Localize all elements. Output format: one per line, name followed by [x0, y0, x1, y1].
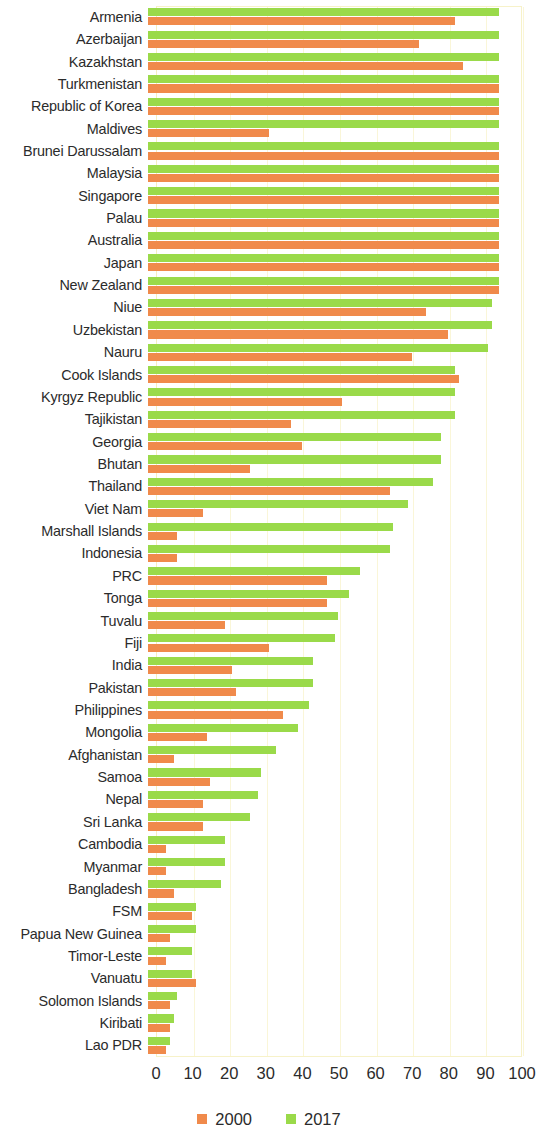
bar-2000	[148, 398, 342, 406]
x-axis-tick-label: 70	[403, 1062, 421, 1084]
category-label: Marshall Islands	[0, 524, 148, 539]
category-label: Sri Lanka	[0, 815, 148, 830]
bar-2000	[148, 800, 203, 808]
bar-2017	[148, 98, 499, 106]
legend-swatch-icon	[197, 1114, 207, 1124]
category-label: Armenia	[0, 10, 148, 25]
x-axis-tick-label: 20	[220, 1062, 238, 1084]
chart-row: FSM	[0, 900, 538, 923]
bar-group	[148, 319, 520, 342]
bar-2017	[148, 232, 499, 240]
chart-row: Thailand	[0, 476, 538, 499]
chart-row: Nepal	[0, 789, 538, 812]
bar-group	[148, 565, 520, 588]
chart-row: Fiji	[0, 632, 538, 655]
category-label: Timor-Leste	[0, 949, 148, 964]
bar-group	[148, 677, 520, 700]
bar-2000	[148, 152, 499, 160]
bar-2017	[148, 724, 298, 732]
chart-row: Georgia	[0, 431, 538, 454]
chart-row: Uzbekistan	[0, 319, 538, 342]
bar-group	[148, 543, 520, 566]
chart-row: Solomon Islands	[0, 990, 538, 1013]
chart-row: Samoa	[0, 766, 538, 789]
bar-2017	[148, 187, 499, 195]
bar-2000	[148, 822, 203, 830]
category-label: Uzbekistan	[0, 323, 148, 338]
bar-2017	[148, 746, 276, 754]
bar-2000	[148, 129, 269, 137]
chart-row: Timor-Leste	[0, 945, 538, 968]
category-label: Nepal	[0, 792, 148, 807]
bar-group	[148, 185, 520, 208]
chart-row: Malaysia	[0, 163, 538, 186]
bar-2017	[148, 366, 455, 374]
bar-2000	[148, 532, 177, 540]
bar-2000	[148, 576, 327, 584]
bar-2017	[148, 679, 313, 687]
chart-row: Japan	[0, 252, 538, 275]
bar-2000	[148, 711, 283, 719]
category-label: Tuvalu	[0, 614, 148, 629]
bar-2017	[148, 321, 492, 329]
bar-2000	[148, 286, 499, 294]
bar-group	[148, 140, 520, 163]
chart-row: Brunei Darussalam	[0, 140, 538, 163]
bar-2000	[148, 353, 412, 361]
chart-row: Kazakhstan	[0, 51, 538, 74]
x-axis: 0102030405060708090100	[0, 1062, 538, 1088]
chart-row: Viet Nam	[0, 498, 538, 521]
chart-row: Republic of Korea	[0, 95, 538, 118]
chart-row: Mongolia	[0, 722, 538, 745]
bar-2000	[148, 666, 232, 674]
category-label: Niue	[0, 300, 148, 315]
bar-2000	[148, 308, 426, 316]
category-label: Lao PDR	[0, 1038, 148, 1053]
bar-2017	[148, 120, 499, 128]
bar-2017	[148, 31, 499, 39]
bar-group	[148, 498, 520, 521]
bar-2017	[148, 545, 390, 553]
bar-2017	[148, 701, 309, 709]
bar-2017	[148, 433, 441, 441]
bar-2017	[148, 209, 499, 217]
category-label: Mongolia	[0, 725, 148, 740]
chart-row: Myanmar	[0, 856, 538, 879]
bar-group	[148, 833, 520, 856]
legend-item: 2017	[286, 1109, 341, 1129]
bar-group	[148, 431, 520, 454]
x-axis-tick-label: 100	[508, 1062, 536, 1084]
bar-2000	[148, 219, 499, 227]
category-label: Pakistan	[0, 681, 148, 696]
bar-2017	[148, 8, 499, 16]
bar-group	[148, 766, 520, 789]
bar-2000	[148, 1024, 170, 1032]
bar-group	[148, 990, 520, 1013]
chart-row: Bangladesh	[0, 878, 538, 901]
bar-group	[148, 610, 520, 633]
chart-row: Cook Islands	[0, 364, 538, 387]
bar-group	[148, 341, 520, 364]
bar-group	[148, 118, 520, 141]
chart-row: Cambodia	[0, 833, 538, 856]
bar-2017	[148, 53, 499, 61]
bar-2017	[148, 299, 492, 307]
chart-row: PRC	[0, 565, 538, 588]
bar-group	[148, 297, 520, 320]
x-axis-tick-label: 50	[330, 1062, 348, 1084]
bar-2000	[148, 509, 203, 517]
category-label: Kazakhstan	[0, 55, 148, 70]
chart-row: Turkmenistan	[0, 73, 538, 96]
bar-2000	[148, 867, 166, 875]
category-label: Azerbaijan	[0, 32, 148, 47]
bar-2017	[148, 1014, 174, 1022]
category-label: Fiji	[0, 636, 148, 651]
bar-group	[148, 252, 520, 275]
category-label: Cambodia	[0, 837, 148, 852]
legend-label: 2017	[304, 1109, 341, 1129]
bar-2017	[148, 75, 499, 83]
chart-row: Nauru	[0, 341, 538, 364]
bar-group	[148, 923, 520, 946]
bar-2000	[148, 688, 236, 696]
bar-2000	[148, 1001, 170, 1009]
